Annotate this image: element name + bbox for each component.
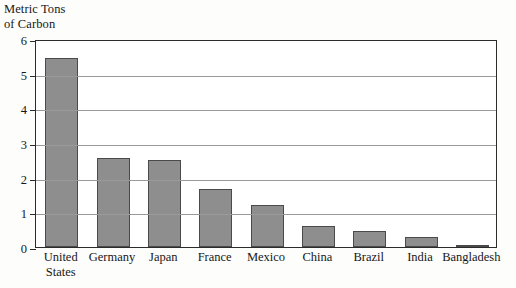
bar-slot xyxy=(199,41,232,247)
y-axis-tick-label: 4 xyxy=(21,103,27,118)
y-axis-tick-label: 0 xyxy=(21,242,27,257)
gridline xyxy=(36,145,496,146)
bar[interactable] xyxy=(405,237,438,247)
bar-slot xyxy=(148,41,181,247)
bar-slot xyxy=(456,41,489,247)
x-axis-category-label: Bangladesh xyxy=(440,250,503,265)
bar[interactable] xyxy=(302,226,335,247)
bar[interactable] xyxy=(251,205,284,247)
bar[interactable] xyxy=(353,231,386,247)
gridline xyxy=(36,110,496,111)
bar[interactable] xyxy=(45,58,78,247)
bar[interactable] xyxy=(199,189,232,247)
y-axis-tick xyxy=(30,145,36,146)
bar-slot xyxy=(302,41,335,247)
y-axis-title: Metric Tons of Carbon xyxy=(4,2,65,31)
bar-slot xyxy=(353,41,386,247)
gridline xyxy=(36,214,496,215)
y-axis-tick-label: 5 xyxy=(21,68,27,83)
bar-chart: Metric Tons of Carbon 0123456 United Sta… xyxy=(0,0,516,288)
y-axis-tick-label: 6 xyxy=(21,34,27,49)
bars-layer xyxy=(36,41,496,247)
gridline xyxy=(36,180,496,181)
bar-slot xyxy=(45,41,78,247)
bar[interactable] xyxy=(148,160,181,247)
bar[interactable] xyxy=(456,245,489,247)
y-axis-tick xyxy=(30,41,36,42)
bar-slot xyxy=(405,41,438,247)
plot-area: 0123456 xyxy=(35,40,497,248)
y-axis-tick xyxy=(30,180,36,181)
bar-slot xyxy=(97,41,130,247)
y-axis-tick xyxy=(30,110,36,111)
bar[interactable] xyxy=(97,158,130,247)
gridline xyxy=(36,76,496,77)
y-axis-tick-label: 2 xyxy=(21,172,27,187)
y-axis-tick xyxy=(30,214,36,215)
bar-slot xyxy=(251,41,284,247)
y-axis-tick xyxy=(30,76,36,77)
y-axis-tick-label: 1 xyxy=(21,207,27,222)
y-axis-tick-label: 3 xyxy=(21,138,27,153)
x-axis-labels: United StatesGermanyJapanFranceMexicoChi… xyxy=(35,250,497,288)
